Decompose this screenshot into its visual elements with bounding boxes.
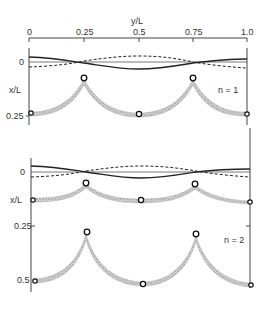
top-axis-tick-0.5: 0.5: [133, 28, 146, 37]
panel1-ytick-0.25: 0.25: [6, 112, 24, 121]
top-axis-title: y/L: [131, 17, 143, 26]
panel1-yaxis-label: x/L: [9, 86, 21, 95]
panel2-ytick-0: 0: [20, 168, 25, 177]
figure-canvas: [0, 0, 268, 311]
panel-n1: [26, 48, 249, 125]
panel1-ytick-0: 0: [19, 58, 24, 67]
panel2-yaxis-label: x/L: [10, 196, 22, 205]
top-axis-tick-0.75: 0.75: [185, 28, 203, 37]
top-axis: [29, 38, 247, 42]
panel-n2: [31, 128, 253, 292]
panel2-ytick-0.25: 0.25: [14, 222, 32, 231]
panel2-annotation: n = 2: [224, 236, 244, 245]
top-axis-tick-0.25: 0.25: [76, 28, 94, 37]
panel2-ytick-0.5: 0.5: [17, 276, 30, 285]
panel1-annotation: n = 1: [218, 86, 238, 95]
top-axis-tick-0: 0: [27, 28, 32, 37]
top-axis-tick-1.0: 1.0: [241, 28, 254, 37]
